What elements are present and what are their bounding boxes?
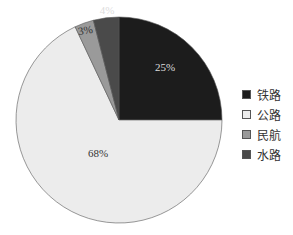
- legend: 铁路 公路 民航 水路: [242, 84, 281, 164]
- legend-item-railway: 铁路: [242, 84, 281, 104]
- legend-swatch-waterway: [242, 150, 251, 159]
- legend-swatch-aviation: [242, 130, 251, 139]
- legend-label: 民航: [257, 126, 281, 143]
- legend-label: 公路: [257, 106, 281, 123]
- legend-swatch-highway: [242, 110, 251, 119]
- legend-item-aviation: 民航: [242, 124, 281, 144]
- pie-label-railway: 25%: [155, 61, 175, 73]
- pie-label-waterway: 4%: [100, 4, 115, 16]
- pie-label-aviation: 3%: [77, 23, 94, 37]
- legend-swatch-railway: [242, 90, 251, 99]
- pie-label-highway: 68%: [88, 147, 108, 159]
- legend-label: 铁路: [257, 86, 281, 103]
- legend-item-waterway: 水路: [242, 144, 281, 164]
- legend-item-highway: 公路: [242, 104, 281, 124]
- legend-label: 水路: [257, 146, 281, 163]
